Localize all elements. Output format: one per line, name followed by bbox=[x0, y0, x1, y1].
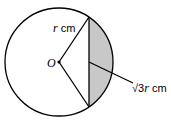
radius-lower bbox=[59, 62, 89, 107]
chord-label: √3r cm bbox=[132, 81, 167, 95]
radius-label: r cm bbox=[53, 21, 75, 35]
shaded-segment bbox=[89, 17, 113, 107]
circle-segment-diagram: O r cm √3r cm bbox=[0, 0, 171, 120]
center-point bbox=[57, 60, 60, 63]
center-label: O bbox=[47, 56, 56, 70]
